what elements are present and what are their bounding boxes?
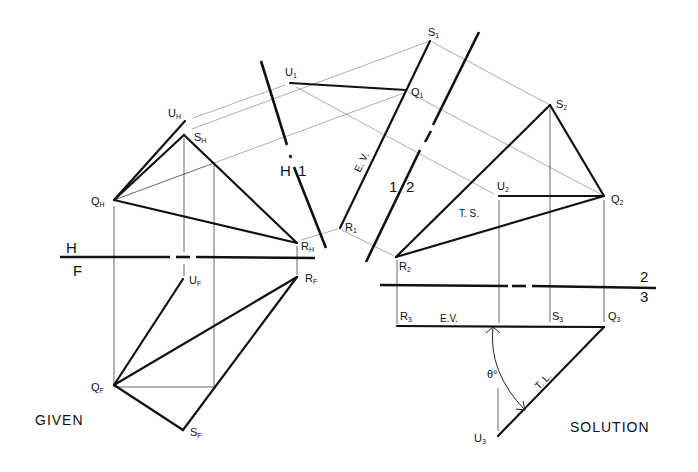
label-uh: UH: [168, 107, 181, 120]
label-qf: QF: [91, 381, 104, 394]
label-q1: Q1: [411, 86, 424, 99]
fold-h1-right: 1: [298, 162, 306, 179]
fold-hf-bottom: F: [73, 262, 82, 279]
label-r1: R1: [345, 221, 357, 234]
label-s1: S1: [428, 26, 439, 39]
label-s2: S2: [556, 98, 567, 111]
front-view: [114, 277, 297, 430]
label-u1: U1: [285, 66, 297, 79]
auxiliary-view-1: [290, 41, 430, 228]
label-sf: SF: [190, 426, 202, 439]
label-s3: S3: [552, 310, 563, 323]
ev-view3-note: E.V.: [440, 313, 458, 324]
tl-view3-note: T. L.: [533, 370, 554, 391]
ts-view2-note: T. S.: [459, 208, 479, 219]
fold-12-left: 1: [389, 178, 397, 195]
solution-caption: SOLUTION: [570, 419, 650, 435]
angle-theta-label: θ°: [487, 368, 498, 380]
label-qh: QH: [91, 195, 105, 208]
label-uf: UF: [189, 274, 201, 287]
label-rf: RF: [305, 272, 317, 285]
label-u2: U2: [497, 180, 509, 193]
projection-lines: [114, 41, 604, 431]
fold-line-labels: H F H 1 1 2 2 3: [66, 162, 648, 305]
label-rh: RH: [301, 240, 314, 253]
label-sh: SH: [194, 131, 206, 144]
fold-hf-top: H: [66, 239, 77, 256]
label-u3: U3: [474, 432, 486, 445]
fold-h1-left: H: [280, 162, 291, 179]
fold-23-top: 2: [640, 268, 648, 285]
label-q3: Q3: [608, 310, 621, 323]
fold-12-right: 2: [406, 178, 414, 195]
fold-23-bottom: 3: [640, 288, 648, 305]
given-caption: GIVEN: [35, 412, 84, 428]
descriptive-geometry-diagram: UH SH QH RH UF RF QF SF U1 S1 Q1 R1 S2 U…: [0, 0, 698, 472]
label-r3: R3: [400, 310, 412, 323]
label-r2: R2: [399, 260, 411, 273]
label-q2: Q2: [611, 193, 624, 206]
annotations: E. V. T. S. E.V. T. L. θ°: [352, 150, 554, 391]
